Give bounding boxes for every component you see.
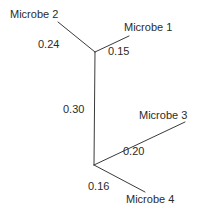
branch-line-internal bbox=[94, 52, 95, 165]
branch-line-microbe-3 bbox=[94, 122, 185, 165]
branch-length-microbe-4: 0.16 bbox=[88, 180, 109, 192]
taxon-label-microbe-1: Microbe 1 bbox=[124, 21, 172, 33]
branch-length-microbe-1: 0.15 bbox=[108, 45, 129, 57]
taxon-label-microbe-3: Microbe 3 bbox=[139, 109, 187, 121]
branch-line-microbe-2 bbox=[58, 22, 95, 52]
phylogenetic-tree-figure: Microbe 2 Microbe 1 Microbe 3 Microbe 4 … bbox=[0, 0, 204, 214]
branch-length-microbe-3: 0.20 bbox=[123, 145, 144, 157]
branch-length-microbe-2: 0.24 bbox=[38, 38, 59, 50]
taxon-label-microbe-4: Microbe 4 bbox=[126, 193, 174, 205]
branch-length-internal: 0.30 bbox=[63, 103, 84, 115]
taxon-label-microbe-2: Microbe 2 bbox=[10, 8, 58, 20]
